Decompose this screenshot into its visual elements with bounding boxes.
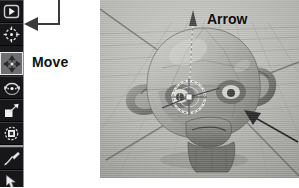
tool-palette (0, 0, 24, 187)
crosshair-target-icon (3, 26, 20, 43)
hand-pointer-icon (4, 174, 20, 188)
pencil-icon (3, 151, 21, 167)
figure-caption (104, 178, 299, 187)
tool-button-rotate[interactable] (0, 76, 23, 99)
rotate-arc-icon (3, 79, 21, 96)
move-four-arrows-icon (3, 55, 21, 73)
mesh-pointer-arrow-icon (244, 110, 298, 142)
tool-button-cursor[interactable] (0, 23, 23, 46)
move-tool-label: Move (32, 54, 69, 70)
transform-gizmo-icon (3, 125, 20, 142)
tool-button-select[interactable] (0, 0, 23, 23)
3d-viewport[interactable]: Arrow (100, 0, 299, 178)
viewport-annotations (100, 0, 299, 178)
tool-button-transform[interactable] (0, 122, 23, 145)
callout-leader-horizontal (36, 23, 60, 25)
tool-button-measure[interactable] (0, 170, 23, 187)
tool-button-scale[interactable] (0, 99, 23, 122)
tool-button-move[interactable] (0, 52, 23, 75)
screenshot-root: Move (0, 0, 299, 187)
scale-square-icon (3, 103, 20, 119)
arrow-annotation-label: Arrow (207, 11, 247, 27)
move-tool-callout: Move (24, 0, 100, 187)
tool-button-annotate[interactable] (0, 147, 23, 170)
callout-leader-vertical (58, 0, 60, 25)
select-arrow-icon (3, 4, 20, 19)
callout-arrowhead-icon (24, 17, 38, 31)
